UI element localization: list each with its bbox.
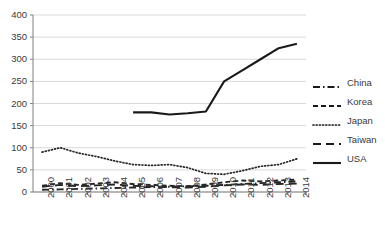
x-axis-tick-label: 2009 [210,177,220,198]
line-chart: 050100150200250300350400 200020012002200… [0,0,385,231]
legend-label: USA [347,154,367,164]
legend-swatch-china [312,78,342,88]
x-axis-tick-label: 2006 [155,177,165,198]
x-axis-tick-label: 2011 [246,178,256,198]
legend-item-taiwan[interactable]: Taiwan [312,130,377,149]
series-line-china [42,181,297,189]
legend-label: China [347,78,372,88]
x-axis-tick-label: 2001 [64,177,74,198]
x-axis-tick-label: 2013 [283,177,293,198]
legend-label: Korea [347,97,372,107]
legend-swatch-japan [312,116,342,126]
x-axis-tick-label: 2007 [174,177,184,198]
x-axis-tick-label: 2010 [228,177,238,198]
chart-legend: ChinaKoreaJapanTaiwanUSA [312,73,377,168]
x-axis-tick-label: 2014 [301,177,311,198]
legend-swatch-taiwan [312,135,342,145]
legend-swatch-usa [312,154,342,164]
legend-swatch-korea [312,97,342,107]
legend-item-japan[interactable]: Japan [312,111,377,130]
x-axis-tick-label: 2004 [119,177,129,198]
x-axis-tick-label: 2005 [137,177,147,198]
series-line-korea [42,180,297,187]
legend-item-korea[interactable]: Korea [312,92,377,111]
x-axis-tick-label: 2000 [46,177,56,198]
legend-label: Japan [347,116,373,126]
legend-label: Taiwan [347,135,377,145]
x-axis-tick-label: 2002 [83,177,93,198]
x-axis-tick-label: 2008 [192,177,202,198]
x-axis-tick-label: 2003 [101,177,111,198]
legend-item-china[interactable]: China [312,73,377,92]
legend-item-usa[interactable]: USA [312,149,377,168]
x-axis-tick-label: 2012 [265,177,275,198]
